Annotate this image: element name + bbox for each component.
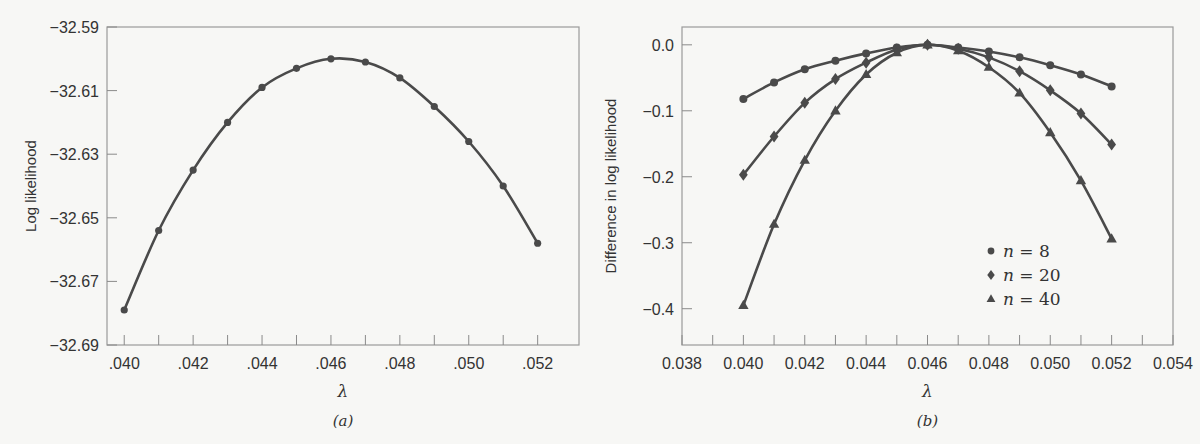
data-point-circle xyxy=(831,57,839,65)
data-point-circle xyxy=(396,74,403,81)
x-tick-label: 0.044 xyxy=(846,355,886,372)
x-tick-label: .044 xyxy=(246,355,277,372)
log-likelihood-chart: .040.042.044.046.048.050.052−32.59−32.61… xyxy=(22,19,579,430)
legend-item: n = 20 xyxy=(987,265,1060,285)
data-point-circle xyxy=(534,240,541,247)
y-tick-label: −32.69 xyxy=(50,337,99,354)
data-point-circle xyxy=(801,65,809,73)
figure-caption: (a) xyxy=(333,412,354,430)
legend-label: n = 20 xyxy=(1003,265,1061,285)
y-tick-label: −0.3 xyxy=(642,235,674,252)
y-tick-label: −0.1 xyxy=(642,103,674,120)
data-point-circle xyxy=(190,167,197,174)
x-tick-label: 0.046 xyxy=(907,355,947,372)
data-point-circle xyxy=(1046,61,1054,69)
data-point-circle xyxy=(362,58,369,65)
figure-caption: (b) xyxy=(917,412,938,430)
data-point-circle xyxy=(739,95,747,103)
data-point-circle xyxy=(431,103,438,110)
data-point-circle xyxy=(465,138,472,145)
series-n20 xyxy=(739,39,1116,181)
legend-item: n = 40 xyxy=(987,289,1061,309)
y-tick-label: −32.59 xyxy=(50,19,99,36)
series-line xyxy=(743,45,1111,175)
x-tick-label: 0.052 xyxy=(1092,355,1132,372)
data-point-circle xyxy=(862,49,870,57)
y-axis-title: Log likelihood xyxy=(22,140,39,232)
x-tick-label: 0.042 xyxy=(785,355,825,372)
x-tick-label: .040 xyxy=(109,355,140,372)
y-tick-label: −32.65 xyxy=(50,210,99,227)
x-tick-label: 0.050 xyxy=(1030,355,1070,372)
y-tick-label: −32.67 xyxy=(50,273,99,290)
x-tick-label: 0.054 xyxy=(1153,355,1193,372)
data-point-circle xyxy=(258,84,265,91)
y-tick-label: −32.61 xyxy=(50,83,99,100)
plot-frame xyxy=(682,27,1173,345)
difference-log-likelihood-chart: 0.0380.0400.0420.0440.0460.0480.0500.052… xyxy=(602,27,1193,430)
x-tick-label: 0.048 xyxy=(969,355,1009,372)
data-point-circle xyxy=(121,306,128,313)
legend-label: n = 8 xyxy=(1003,241,1050,261)
x-tick-label: .042 xyxy=(178,355,209,372)
circle-marker-icon xyxy=(988,248,995,255)
legend-item: n = 8 xyxy=(988,241,1050,261)
figure: .040.042.044.046.048.050.052−32.59−32.61… xyxy=(0,0,1200,444)
y-axis-title: Difference in log likelihood xyxy=(602,99,619,274)
y-tick-label: −0.2 xyxy=(642,169,674,186)
data-point-diamond xyxy=(862,57,871,69)
x-axis-title: λ xyxy=(921,381,933,401)
data-point-circle xyxy=(224,119,231,126)
data-point-triangle xyxy=(769,219,779,228)
legend-label: n = 40 xyxy=(1003,289,1061,309)
diamond-marker-icon xyxy=(987,270,994,280)
data-point-circle xyxy=(500,182,507,189)
series-line xyxy=(124,58,537,310)
series-loglikelihood xyxy=(121,55,542,313)
data-point-diamond xyxy=(1046,84,1055,96)
data-point-circle xyxy=(155,227,162,234)
y-tick-label: −32.63 xyxy=(50,146,99,163)
legend: n = 8n = 20n = 40 xyxy=(987,241,1061,309)
x-tick-label: .050 xyxy=(453,355,484,372)
data-point-circle xyxy=(293,65,300,72)
data-point-circle xyxy=(327,55,334,62)
x-tick-label: .048 xyxy=(384,355,415,372)
y-tick-label: 0.0 xyxy=(652,37,674,54)
plot-frame xyxy=(107,27,579,345)
x-tick-label: 0.038 xyxy=(662,355,702,372)
data-point-diamond xyxy=(1015,65,1024,77)
x-axis-title: λ xyxy=(337,381,349,401)
series-line xyxy=(743,45,1111,99)
data-point-diamond xyxy=(831,73,840,85)
data-point-circle xyxy=(770,78,778,86)
data-point-circle xyxy=(1077,71,1085,79)
x-tick-label: .046 xyxy=(315,355,346,372)
data-point-circle xyxy=(1016,53,1024,61)
data-point-circle xyxy=(1108,82,1116,90)
y-tick-label: −0.4 xyxy=(642,301,674,318)
triangle-marker-icon xyxy=(987,294,996,302)
x-tick-label: 0.040 xyxy=(723,355,763,372)
data-point-triangle xyxy=(738,300,748,309)
x-tick-label: .052 xyxy=(522,355,553,372)
